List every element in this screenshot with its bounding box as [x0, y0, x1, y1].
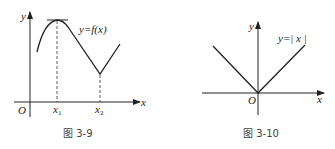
y-axis-label: y	[248, 20, 254, 32]
figure-3-10: y y=| x | O x 图 3-10	[202, 20, 324, 139]
figure-caption: 图 3-10	[243, 128, 279, 139]
figure-caption: 图 3-9	[63, 128, 93, 139]
tick-label-x1: x1	[52, 103, 62, 117]
origin-label: O	[18, 104, 26, 116]
figures-canvas: y y=f(x) O x x1 x2 图 3-9 y y=| x | O x 图…	[0, 0, 335, 149]
x-axis-label: x	[140, 96, 146, 108]
figure-3-9: y y=f(x) O x x1 x2 图 3-9	[14, 10, 146, 139]
y-axis-label: y	[20, 10, 26, 22]
tick-label-x2: x2	[94, 103, 104, 117]
function-label: y=f(x)	[78, 23, 107, 36]
abs-function-graph	[213, 45, 305, 93]
origin-label: O	[248, 94, 256, 106]
x-axis-label: x	[316, 93, 322, 105]
function-label: y=| x |	[277, 32, 307, 44]
